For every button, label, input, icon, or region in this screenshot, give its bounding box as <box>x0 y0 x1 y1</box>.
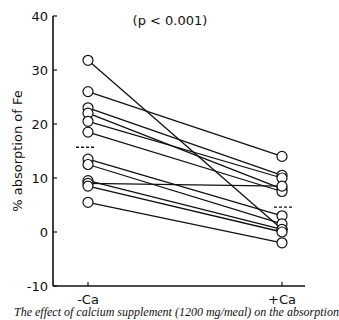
data-point-plus-ca <box>277 181 287 191</box>
figure-caption: The effect of calcium supplement (1200 m… <box>14 305 339 320</box>
y-tick-label: -10 <box>27 279 48 294</box>
y-axis-label: % absorption of Fe <box>10 90 25 212</box>
y-tick-label: 10 <box>31 171 48 186</box>
y-tick-label: 20 <box>31 117 48 132</box>
mean-lines <box>76 147 294 207</box>
chart-title: (p < 0.001) <box>133 13 208 28</box>
data-point-minus-ca <box>83 127 93 137</box>
data-point-plus-ca <box>277 227 287 237</box>
y-tick-label: 30 <box>31 63 48 78</box>
subject-line <box>88 60 282 229</box>
data-point-minus-ca <box>83 116 93 126</box>
data-lines <box>88 60 282 243</box>
data-point-minus-ca <box>83 87 93 97</box>
subject-line <box>88 165 282 224</box>
data-point-minus-ca <box>83 55 93 65</box>
y-tick-label: 40 <box>31 9 48 24</box>
data-point-plus-ca <box>277 238 287 248</box>
data-point-minus-ca <box>83 160 93 170</box>
y-tick-label: 0 <box>40 225 48 240</box>
subject-line <box>88 183 282 186</box>
subject-line <box>88 186 282 232</box>
data-point-plus-ca <box>277 151 287 161</box>
axes: -10010203040-Ca+Ca <box>27 9 305 307</box>
data-point-minus-ca <box>83 197 93 207</box>
data-point-minus-ca <box>83 181 93 191</box>
subject-line <box>88 121 282 178</box>
